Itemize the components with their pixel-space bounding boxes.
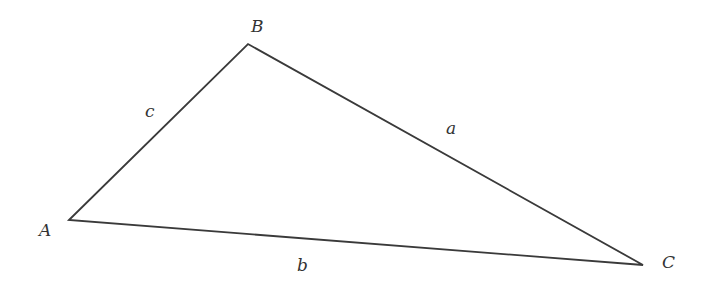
side-label-b: b: [297, 255, 308, 275]
vertex-label-c: C: [662, 252, 675, 272]
triangle-diagram: A B C a b c: [0, 0, 713, 285]
triangle-abc: [69, 44, 643, 265]
vertex-label-b: B: [250, 16, 264, 36]
triangle-canvas: A B C a b c: [0, 0, 713, 285]
side-label-c: c: [145, 101, 155, 121]
vertex-label-a: A: [37, 220, 51, 240]
side-label-a: a: [446, 118, 456, 138]
